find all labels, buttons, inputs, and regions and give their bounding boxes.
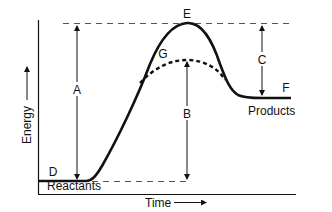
label-c: C [258,53,267,67]
label-a: A [73,83,81,97]
label-g: G [158,47,167,61]
y-axis-label: Energy [20,106,34,144]
label-e: E [183,7,191,21]
energy-diagram: A B C E G F D Products Reactants Energy … [0,0,332,212]
label-d: D [49,165,58,179]
label-products: Products [248,104,295,118]
label-b: B [183,107,191,121]
label-reactants: Reactants [47,179,101,193]
label-f: F [282,81,289,95]
catalyzed-curve [140,60,225,83]
x-axis-label: Time [145,196,172,210]
